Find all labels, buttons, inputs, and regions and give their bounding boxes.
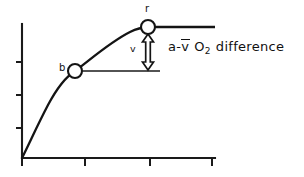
- annotation-prefix: a-: [168, 39, 181, 54]
- difference-arrow-group: [143, 34, 154, 70]
- annotation-v-overbar: v: [181, 40, 189, 53]
- annotation-o-subscript: 2: [205, 46, 211, 56]
- figure-canvas: [0, 0, 304, 177]
- double-headed-arrow-icon: [143, 34, 154, 70]
- marker-label-r: r: [145, 4, 149, 14]
- marker-label-b: b: [59, 63, 65, 73]
- marker-point-r: [141, 20, 155, 34]
- annotation-suffix: difference: [216, 39, 284, 54]
- av-o2-difference-annotation: a-vO2difference: [168, 40, 284, 56]
- annotation-o: O: [194, 39, 205, 54]
- markers-group: [68, 20, 155, 78]
- oxygen-dissociation-figure: r b v a-vO2difference: [0, 0, 304, 177]
- marker-point-b: [68, 64, 82, 78]
- arrow-label-v: v: [130, 44, 136, 54]
